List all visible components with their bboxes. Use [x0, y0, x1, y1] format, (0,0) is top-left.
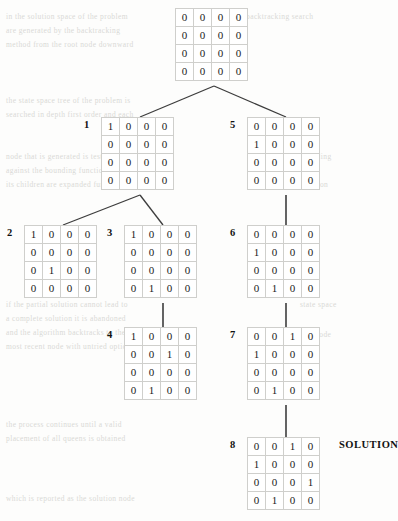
board-row: 0000: [125, 262, 197, 280]
board-cell: 0: [248, 382, 266, 400]
board-row: 1000: [248, 456, 320, 474]
board-cell: 0: [161, 262, 179, 280]
board-cell: 0: [284, 280, 302, 298]
board-node-n1: 1000000000000000: [101, 117, 174, 190]
board-cell: 0: [284, 364, 302, 382]
board-cell: 0: [102, 154, 120, 172]
board-row: 0000: [102, 154, 174, 172]
board-row: 0000: [102, 136, 174, 154]
board-cell: 1: [248, 346, 266, 364]
board-cell: 0: [248, 118, 266, 136]
board-cell: 0: [248, 154, 266, 172]
board-cell: 0: [179, 382, 197, 400]
board-cell: 0: [176, 63, 194, 81]
board-cell: 0: [248, 172, 266, 190]
board-cell: 0: [266, 346, 284, 364]
board-cell: 0: [212, 45, 230, 63]
board-cell: 0: [179, 226, 197, 244]
board-row: 0010: [125, 346, 197, 364]
board-cell: 0: [284, 346, 302, 364]
board-cell: 0: [120, 118, 138, 136]
board-cell: 0: [138, 154, 156, 172]
board-row: 0100: [125, 280, 197, 298]
board-cell: 0: [179, 346, 197, 364]
board-cell: 0: [79, 226, 97, 244]
board-cell: 0: [125, 280, 143, 298]
edge-n1-n2: [63, 195, 140, 225]
board-cell: 0: [120, 172, 138, 190]
board-cell: 0: [212, 9, 230, 27]
board-cell: 0: [125, 262, 143, 280]
board-cell: 1: [43, 262, 61, 280]
board-cell: 0: [284, 492, 302, 510]
edge-n1-n3: [140, 195, 163, 225]
chessboard-grid: 1000000000000000: [101, 117, 174, 190]
board-cell: 0: [161, 226, 179, 244]
board-cell: 0: [156, 118, 174, 136]
board-cell: 0: [156, 172, 174, 190]
board-cell: 0: [302, 438, 320, 456]
board-cell: 1: [125, 226, 143, 244]
board-cell: 0: [284, 118, 302, 136]
board-node-n5: 0000100000000000: [247, 117, 320, 190]
board-cell: 0: [248, 262, 266, 280]
board-cell: 0: [302, 364, 320, 382]
board-cell: 1: [143, 280, 161, 298]
chessboard-grid: 0000000000000000: [175, 8, 248, 81]
board-node-root: 0000000000000000: [175, 8, 248, 81]
board-row: 1000: [248, 346, 320, 364]
board-cell: 0: [138, 136, 156, 154]
node-number-label: 3: [107, 227, 112, 238]
board-row: 0000: [125, 244, 197, 262]
board-cell: 0: [284, 136, 302, 154]
node-number-label: 6: [230, 227, 235, 238]
board-cell: 0: [248, 280, 266, 298]
board-cell: 0: [194, 27, 212, 45]
board-cell: 0: [230, 27, 248, 45]
board-cell: 0: [302, 262, 320, 280]
board-cell: 0: [302, 226, 320, 244]
board-cell: 1: [266, 382, 284, 400]
board-cell: 0: [25, 262, 43, 280]
board-row: 0100: [248, 492, 320, 510]
board-cell: 0: [248, 364, 266, 382]
board-cell: 0: [266, 136, 284, 154]
board-cell: 1: [25, 226, 43, 244]
board-row: 0000: [248, 118, 320, 136]
board-row: 0100: [248, 280, 320, 298]
board-cell: 0: [302, 328, 320, 346]
board-cell: 0: [302, 244, 320, 262]
board-row: 1000: [25, 226, 97, 244]
board-cell: 0: [161, 244, 179, 262]
board-cell: 0: [284, 262, 302, 280]
board-node-n4: 1000001000000100: [124, 327, 197, 400]
board-cell: 1: [284, 438, 302, 456]
board-node-n8: 0010100000010100: [247, 437, 320, 510]
board-cell: 0: [248, 438, 266, 456]
board-cell: 0: [138, 118, 156, 136]
board-row: 0000: [176, 45, 248, 63]
node-number-label: 7: [230, 329, 235, 340]
board-cell: 0: [120, 136, 138, 154]
board-cell: 1: [102, 118, 120, 136]
board-cell: 0: [125, 244, 143, 262]
board-cell: 1: [248, 456, 266, 474]
board-cell: 0: [179, 280, 197, 298]
board-cell: 0: [25, 280, 43, 298]
board-row: 0000: [176, 63, 248, 81]
board-cell: 0: [143, 226, 161, 244]
board-cell: 0: [143, 328, 161, 346]
board-cell: 1: [161, 346, 179, 364]
board-cell: 0: [284, 172, 302, 190]
chessboard-grid: 0010100000000100: [247, 327, 320, 400]
board-row: 0010: [248, 328, 320, 346]
board-cell: 0: [143, 346, 161, 364]
board-cell: 0: [120, 154, 138, 172]
board-row: 0100: [248, 382, 320, 400]
node-number-label: 4: [107, 329, 112, 340]
board-node-n2: 1000000001000000: [24, 225, 97, 298]
board-row: 1000: [248, 136, 320, 154]
board-cell: 0: [194, 63, 212, 81]
board-cell: 0: [248, 492, 266, 510]
board-cell: 0: [179, 262, 197, 280]
